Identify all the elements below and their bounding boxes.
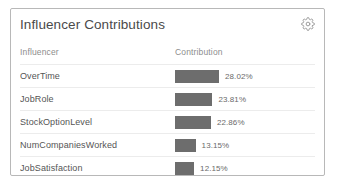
contributions-table: Influencer Contribution OverTime 28.02% …: [11, 40, 324, 179]
column-header-contribution-label: Contribution: [175, 47, 223, 57]
influencer-name: StockOptionLevel: [20, 117, 175, 127]
gear-icon[interactable]: [300, 16, 316, 32]
contribution-bar: [175, 139, 196, 152]
table-row[interactable]: OverTime 28.02%: [20, 65, 315, 88]
influencer-name: JobRole: [20, 94, 175, 104]
table-row[interactable]: JobRole 23.81%: [20, 88, 315, 111]
contribution-cell: 13.15%: [175, 134, 315, 156]
table-row[interactable]: JobSatisfaction 12.15%: [20, 157, 315, 179]
table-row[interactable]: StockOptionLevel 22.86%: [20, 111, 315, 134]
contribution-value: 28.02%: [225, 72, 253, 81]
contribution-bar: [175, 93, 212, 106]
influencer-contributions-card: Influencer Contributions Influencer Cont…: [10, 8, 325, 176]
table-row[interactable]: NumCompaniesWorked 13.15%: [20, 134, 315, 157]
contribution-cell: 28.02%: [175, 65, 315, 87]
contribution-value: 23.81%: [218, 95, 246, 104]
column-header-contribution: Contribution: [175, 40, 315, 64]
card-header: Influencer Contributions: [11, 9, 324, 40]
contribution-cell: 23.81%: [175, 88, 315, 110]
contribution-value: 13.15%: [202, 141, 230, 150]
contribution-cell: 12.15%: [175, 157, 315, 179]
influencer-name: OverTime: [20, 71, 175, 81]
contribution-bar: [175, 70, 219, 83]
contribution-value: 22.86%: [217, 118, 245, 127]
contribution-bar: [175, 116, 211, 129]
column-header-influencer: Influencer: [20, 47, 175, 57]
page-title: Influencer Contributions: [20, 17, 165, 32]
influencer-name: NumCompaniesWorked: [20, 140, 175, 150]
table-header-row: Influencer Contribution: [20, 40, 315, 65]
contribution-cell: 22.86%: [175, 111, 315, 133]
contribution-value: 12.15%: [200, 164, 228, 173]
influencer-name: JobSatisfaction: [20, 163, 175, 173]
contribution-bar: [175, 162, 194, 175]
